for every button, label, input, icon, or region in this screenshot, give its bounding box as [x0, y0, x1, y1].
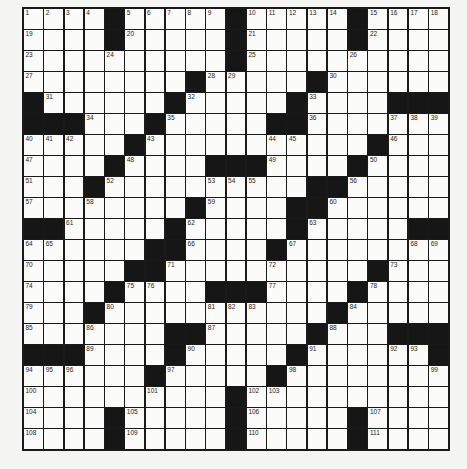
answer-cell[interactable]: 51	[24, 177, 43, 197]
answer-cell[interactable]	[267, 219, 286, 239]
answer-cell[interactable]: 45	[287, 135, 306, 155]
answer-cell[interactable]	[166, 51, 185, 71]
answer-cell[interactable]: 28	[206, 72, 225, 92]
answer-cell[interactable]: 106	[247, 408, 266, 428]
answer-cell[interactable]: 79	[24, 303, 43, 323]
answer-cell[interactable]	[227, 366, 246, 386]
answer-cell[interactable]: 55	[247, 177, 266, 197]
answer-cell[interactable]	[206, 114, 225, 134]
answer-cell[interactable]: 77	[267, 282, 286, 302]
answer-cell[interactable]	[227, 198, 246, 218]
answer-cell[interactable]	[247, 240, 266, 260]
answer-cell[interactable]	[44, 156, 63, 176]
answer-cell[interactable]	[287, 51, 306, 71]
answer-cell[interactable]	[105, 345, 124, 365]
answer-cell[interactable]	[389, 303, 408, 323]
answer-cell[interactable]	[287, 156, 306, 176]
answer-cell[interactable]: 19	[24, 30, 43, 50]
answer-cell[interactable]: 111	[368, 429, 387, 449]
answer-cell[interactable]	[146, 324, 165, 344]
answer-cell[interactable]	[328, 261, 347, 281]
answer-cell[interactable]	[348, 198, 367, 218]
answer-cell[interactable]	[166, 387, 185, 407]
answer-cell[interactable]: 89	[85, 345, 104, 365]
answer-cell[interactable]	[328, 345, 347, 365]
answer-cell[interactable]	[105, 240, 124, 260]
answer-cell[interactable]: 88	[328, 324, 347, 344]
answer-cell[interactable]	[368, 219, 387, 239]
answer-cell[interactable]	[308, 366, 327, 386]
answer-cell[interactable]	[409, 261, 428, 281]
answer-cell[interactable]: 41	[44, 135, 63, 155]
answer-cell[interactable]	[166, 135, 185, 155]
answer-cell[interactable]	[206, 240, 225, 260]
answer-cell[interactable]	[287, 387, 306, 407]
answer-cell[interactable]	[368, 72, 387, 92]
answer-cell[interactable]	[308, 282, 327, 302]
answer-cell[interactable]	[308, 303, 327, 323]
answer-cell[interactable]	[409, 51, 428, 71]
answer-cell[interactable]	[227, 345, 246, 365]
answer-cell[interactable]	[389, 72, 408, 92]
answer-cell[interactable]: 29	[227, 72, 246, 92]
answer-cell[interactable]: 92	[389, 345, 408, 365]
answer-cell[interactable]	[348, 387, 367, 407]
answer-cell[interactable]: 38	[409, 114, 428, 134]
answer-cell[interactable]	[125, 240, 144, 260]
answer-cell[interactable]: 86	[85, 324, 104, 344]
answer-cell[interactable]	[166, 303, 185, 323]
answer-cell[interactable]	[429, 72, 448, 92]
answer-cell[interactable]: 63	[308, 219, 327, 239]
answer-cell[interactable]: 76	[146, 282, 165, 302]
answer-cell[interactable]	[44, 72, 63, 92]
answer-cell[interactable]	[227, 219, 246, 239]
answer-cell[interactable]	[85, 387, 104, 407]
answer-cell[interactable]: 36	[308, 114, 327, 134]
answer-cell[interactable]	[65, 303, 84, 323]
answer-cell[interactable]	[85, 408, 104, 428]
answer-cell[interactable]	[308, 261, 327, 281]
answer-cell[interactable]	[389, 366, 408, 386]
answer-cell[interactable]: 95	[44, 366, 63, 386]
answer-cell[interactable]	[308, 156, 327, 176]
answer-cell[interactable]	[105, 366, 124, 386]
answer-cell[interactable]	[44, 324, 63, 344]
answer-cell[interactable]	[65, 72, 84, 92]
answer-cell[interactable]	[287, 324, 306, 344]
answer-cell[interactable]	[166, 72, 185, 92]
answer-cell[interactable]: 37	[389, 114, 408, 134]
answer-cell[interactable]	[105, 387, 124, 407]
answer-cell[interactable]	[105, 114, 124, 134]
answer-cell[interactable]	[247, 72, 266, 92]
answer-cell[interactable]	[146, 408, 165, 428]
answer-cell[interactable]: 78	[368, 282, 387, 302]
answer-cell[interactable]	[85, 51, 104, 71]
answer-cell[interactable]: 7	[166, 9, 185, 29]
answer-cell[interactable]: 83	[247, 303, 266, 323]
answer-cell[interactable]	[206, 93, 225, 113]
answer-cell[interactable]	[247, 261, 266, 281]
answer-cell[interactable]: 52	[105, 177, 124, 197]
answer-cell[interactable]	[267, 198, 286, 218]
answer-cell[interactable]	[227, 261, 246, 281]
answer-cell[interactable]: 13	[308, 9, 327, 29]
answer-cell[interactable]	[328, 93, 347, 113]
answer-cell[interactable]	[389, 177, 408, 197]
answer-cell[interactable]: 64	[24, 240, 43, 260]
answer-cell[interactable]	[267, 324, 286, 344]
answer-cell[interactable]	[125, 219, 144, 239]
answer-cell[interactable]	[429, 198, 448, 218]
answer-cell[interactable]	[206, 366, 225, 386]
answer-cell[interactable]	[368, 240, 387, 260]
answer-cell[interactable]: 42	[65, 135, 84, 155]
answer-cell[interactable]	[186, 135, 205, 155]
answer-cell[interactable]	[146, 93, 165, 113]
answer-cell[interactable]	[44, 51, 63, 71]
answer-cell[interactable]	[146, 198, 165, 218]
answer-cell[interactable]	[287, 261, 306, 281]
answer-cell[interactable]	[125, 72, 144, 92]
answer-cell[interactable]	[429, 177, 448, 197]
answer-cell[interactable]: 6	[146, 9, 165, 29]
answer-cell[interactable]	[125, 93, 144, 113]
answer-cell[interactable]	[146, 156, 165, 176]
